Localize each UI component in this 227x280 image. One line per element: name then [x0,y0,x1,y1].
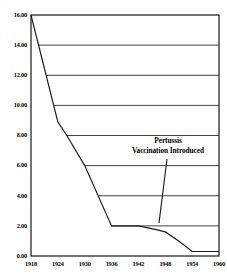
annotation-pertussis-vaccination-introduced: Pertussis Vaccination Introduced [118,136,218,156]
x-tick-label-1948: 1948 [153,261,177,267]
y-tick-label-12.00: 12.00 [1,72,27,78]
x-tick-label-1918: 1918 [19,261,43,267]
y-tick-label-2.00: 2.00 [1,223,27,229]
x-tick-label-1930: 1930 [73,261,97,267]
x-tick-label-1942: 1942 [126,261,150,267]
pertussis-mortality-chart: 0.002.004.006.008.0010.0012.0014.0016.00… [0,0,227,280]
y-tick-label-0.00: 0.00 [1,253,27,259]
y-tick-label-16.00: 16.00 [1,12,27,18]
x-tick-label-1924: 1924 [46,261,70,267]
y-tick-label-10.00: 10.00 [1,102,27,108]
annotation-line-2: Vaccination Introduced [118,146,218,156]
y-tick-label-8.00: 8.00 [1,132,27,138]
x-tick-label-1954: 1954 [180,261,204,267]
y-tick-label-4.00: 4.00 [1,193,27,199]
x-tick-label-1960: 1960 [207,261,227,267]
annotation-leader-line [159,159,167,223]
annotation-line-1: Pertussis [118,136,218,146]
data-series-line [31,15,219,251]
y-tick-label-14.00: 14.00 [1,42,27,48]
x-tick-label-1936: 1936 [100,261,124,267]
y-tick-label-6.00: 6.00 [1,162,27,168]
